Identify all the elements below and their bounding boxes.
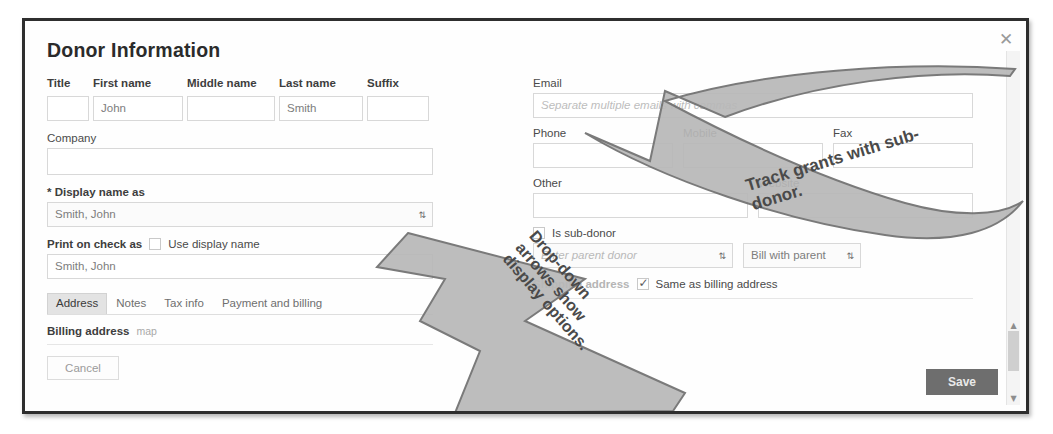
phone-label: Phone: [533, 127, 673, 139]
phone-input[interactable]: [533, 143, 673, 168]
website-input[interactable]: [758, 193, 973, 218]
scanned-page-frame: ✕ Donor Information Title First name Joh…: [22, 18, 1029, 414]
fax-input[interactable]: [833, 143, 973, 168]
tab-address[interactable]: Address: [47, 293, 107, 314]
billing-address-header: Billing address map: [47, 325, 433, 337]
is-subdonor-label: Is sub-donor: [552, 227, 616, 239]
bill-with-parent-select[interactable]: Bill with parent ⇅: [743, 243, 861, 268]
tab-notes[interactable]: Notes: [107, 293, 155, 314]
middle-name-input[interactable]: [187, 96, 275, 121]
phone-row-labels: Phone Mobile Fax: [533, 127, 973, 139]
phone-row-group: Phone Mobile Fax: [533, 127, 973, 168]
cancel-button[interactable]: Cancel: [47, 356, 119, 380]
other-input[interactable]: [533, 193, 748, 218]
bill-with-parent-value: Bill with parent: [751, 249, 826, 261]
print-on-check-header: Print on check as Use display name: [47, 238, 433, 250]
email-field-group: Email Separate multiple emails with comm…: [533, 77, 973, 118]
shipping-address-row: Shipping address Same as billing address: [533, 278, 973, 290]
title-label: Title: [47, 77, 89, 91]
use-display-name-checkbox[interactable]: [149, 238, 161, 250]
is-subdonor-checkbox[interactable]: [533, 227, 545, 239]
mobile-label: Mobile: [683, 127, 823, 139]
first-name-label: First name: [93, 77, 183, 91]
tab-payment-and-billing[interactable]: Payment and billing: [213, 293, 331, 314]
fax-label: Fax: [833, 127, 973, 139]
company-label: Company: [47, 132, 433, 144]
billing-address-label: Billing address: [47, 325, 129, 337]
scrollbar-thumb[interactable]: [1008, 331, 1019, 371]
subdonor-checkbox-row: Is sub-donor: [533, 227, 973, 239]
title-input[interactable]: [47, 96, 89, 121]
display-name-value: Smith, John: [55, 208, 116, 220]
page-title: Donor Information: [47, 39, 220, 62]
first-name-field-group: First name John: [93, 77, 183, 121]
same-as-billing-checkbox[interactable]: [637, 278, 649, 290]
suffix-input[interactable]: [367, 96, 429, 121]
shipping-address-label: Shipping address: [533, 278, 630, 290]
last-name-field-group: Last name Smith: [279, 77, 363, 121]
tab-tax-info[interactable]: Tax info: [155, 293, 213, 314]
last-name-input[interactable]: Smith: [279, 96, 363, 121]
print-on-check-input[interactable]: Smith, John: [47, 254, 433, 279]
other-row-inputs: [533, 193, 973, 218]
middle-name-label: Middle name: [187, 77, 275, 91]
parent-donor-select[interactable]: Enter parent donor ⇅: [533, 243, 733, 268]
chevron-updown-icon: ⇅: [418, 210, 426, 219]
company-input[interactable]: [47, 148, 433, 175]
parent-donor-row: Enter parent donor ⇅ Bill with parent ⇅: [533, 243, 973, 268]
suffix-field-group: Suffix: [367, 77, 429, 121]
close-icon[interactable]: ✕: [996, 29, 1016, 49]
chevron-updown-icon: ⇅: [718, 251, 726, 260]
email-label: Email: [533, 77, 973, 89]
phone-row-inputs: [533, 143, 973, 168]
scroll-up-icon[interactable]: ▲: [1007, 321, 1020, 330]
print-on-check-group: Print on check as Use display name Smith…: [47, 238, 433, 279]
chevron-updown-icon: ⇅: [846, 251, 854, 260]
left-column: Title First name John Middle name Last n…: [47, 77, 433, 380]
display-name-field-group: * Display name as Smith, John ⇅: [47, 186, 433, 227]
other-row-group: Other Website: [533, 177, 973, 218]
mobile-input[interactable]: [683, 143, 823, 168]
email-input[interactable]: Separate multiple emails with commas: [533, 93, 973, 118]
save-button[interactable]: Save: [926, 369, 998, 395]
map-link[interactable]: map: [136, 325, 156, 337]
print-on-check-label: Print on check as: [47, 238, 142, 250]
use-display-name-label: Use display name: [168, 238, 259, 250]
last-name-label: Last name: [279, 77, 363, 91]
middle-name-field-group: Middle name: [187, 77, 275, 121]
detail-tabs: Address Notes Tax info Payment and billi…: [47, 293, 433, 315]
name-fields-row: Title First name John Middle name Last n…: [47, 77, 433, 121]
other-label: Other: [533, 177, 748, 189]
display-name-label: * Display name as: [47, 186, 433, 198]
parent-donor-value: Enter parent donor: [541, 249, 637, 261]
display-name-select[interactable]: Smith, John ⇅: [47, 202, 433, 227]
suffix-label: Suffix: [367, 77, 429, 91]
shipping-divider: [533, 298, 973, 299]
vertical-scrollbar[interactable]: ▲ ▼: [1006, 51, 1020, 405]
first-name-input[interactable]: John: [93, 96, 183, 121]
right-column: Email Separate multiple emails with comm…: [533, 77, 973, 299]
title-field-group: Title: [47, 77, 89, 121]
billing-divider: [47, 344, 433, 345]
other-row-labels: Other Website: [533, 177, 973, 189]
website-label: Website: [758, 177, 973, 189]
donor-information-dialog: ✕ Donor Information Title First name Joh…: [25, 21, 1026, 411]
scroll-down-icon[interactable]: ▼: [1007, 394, 1020, 403]
company-field-group: Company: [47, 132, 433, 175]
same-as-billing-label: Same as billing address: [656, 278, 778, 290]
